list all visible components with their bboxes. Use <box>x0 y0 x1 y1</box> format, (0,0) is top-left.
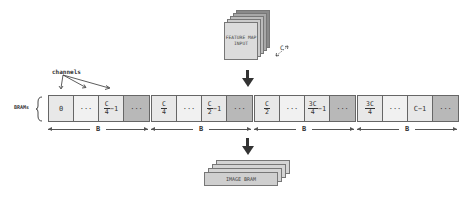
channel-arrows-icon <box>55 74 115 94</box>
fraction-denominator: 4 <box>162 109 166 116</box>
width-dimension: B <box>254 124 354 134</box>
bram-cell: 0 <box>49 96 74 121</box>
dimension-arrow-left <box>357 129 399 130</box>
width-label: B <box>399 125 415 133</box>
cell-label: ··· <box>183 105 196 113</box>
fraction: 3C4 <box>365 101 375 116</box>
feature-map-label-2: INPUT <box>226 41 256 47</box>
width-label: B <box>193 125 209 133</box>
fraction-denominator: 4 <box>105 109 109 116</box>
feature-map-input: FEATURE MAP INPUT <box>224 10 274 62</box>
fraction: C2 <box>264 101 270 116</box>
image-bram-label: IMAGE BRAM <box>226 176 256 182</box>
brams-label: BRAMs <box>14 104 29 110</box>
bram-cell: C−1 <box>408 96 433 121</box>
fraction-denominator: 4 <box>311 109 315 116</box>
width-dimension: B <box>357 124 457 134</box>
feature-map-front: FEATURE MAP INPUT <box>224 22 258 60</box>
width-dimension: B <box>151 124 251 134</box>
fraction-suffix: −1 <box>318 105 326 113</box>
fraction: 3C4 <box>308 101 318 116</box>
width-label: B <box>296 125 312 133</box>
cell-label: 0 <box>59 105 63 113</box>
cell-label: ··· <box>80 105 93 113</box>
bram-group: 0···C4−1··· <box>48 95 150 122</box>
cell-label: ··· <box>233 105 246 113</box>
dimension-arrow-right <box>415 129 457 130</box>
bram-cell: 3C4−1 <box>305 96 330 121</box>
fraction-denominator: 2 <box>265 109 269 116</box>
dimension-arrow-right <box>209 129 251 130</box>
fraction: C4 <box>161 101 167 116</box>
cell-label: ··· <box>336 105 349 113</box>
padding-cell: ··· <box>124 96 149 121</box>
fraction-suffix: −1 <box>110 105 118 113</box>
bram-group: 3C4···C−1··· <box>357 95 459 122</box>
bram-cell: ··· <box>177 96 202 121</box>
cell-label: C−1 <box>414 105 427 113</box>
cell-label: ··· <box>389 105 402 113</box>
padding-cell: ··· <box>227 96 252 121</box>
dimension-arrow-left <box>48 129 90 130</box>
bram-group: C4···C2−1··· <box>151 95 253 122</box>
cell-label: ··· <box>439 105 452 113</box>
image-bram-front: IMAGE BRAM <box>204 172 278 186</box>
down-arrow-icon <box>242 146 254 155</box>
cell-label: ··· <box>130 105 143 113</box>
dimension-arrow-left <box>151 129 193 130</box>
bram-cell: C4−1 <box>99 96 124 121</box>
padding-cell: ··· <box>330 96 355 121</box>
bram-cell: C2 <box>255 96 280 121</box>
image-bram: IMAGE BRAM <box>204 160 294 190</box>
bram-group: C2···3C4−1··· <box>254 95 356 122</box>
bram-cell: ··· <box>74 96 99 121</box>
dimension-arrow-right <box>106 129 148 130</box>
bram-cell: ··· <box>383 96 408 121</box>
depth-label: C <box>280 44 284 51</box>
width-label: B <box>90 125 106 133</box>
width-dimension: B <box>48 124 148 134</box>
dimension-arrow-left <box>254 129 296 130</box>
bram-cell: 3C4 <box>358 96 383 121</box>
fraction-denominator: 4 <box>368 109 372 116</box>
padding-cell: ··· <box>433 96 458 121</box>
dimension-arrow-right <box>312 129 354 130</box>
down-arrow-icon <box>242 78 254 87</box>
fraction-denominator: 2 <box>208 109 212 116</box>
cell-label: ··· <box>286 105 299 113</box>
brace-icon <box>35 96 43 122</box>
bram-cell: C2−1 <box>202 96 227 121</box>
bram-cell: C4 <box>152 96 177 121</box>
bram-cell: ··· <box>280 96 305 121</box>
fraction-suffix: −1 <box>213 105 221 113</box>
